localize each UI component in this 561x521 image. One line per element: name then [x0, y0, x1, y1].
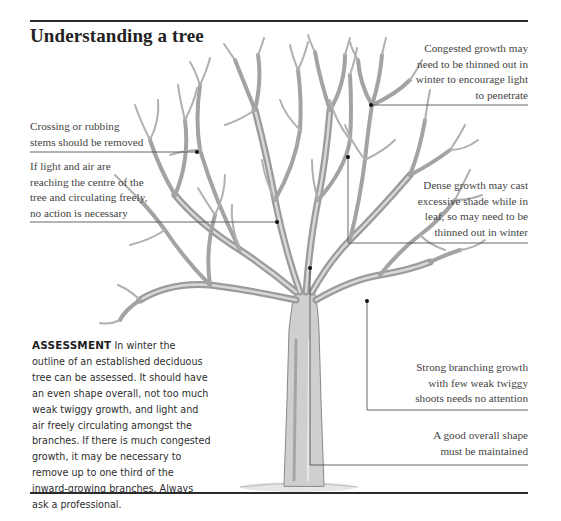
- callout-line: Crossing or rubbing: [30, 119, 143, 135]
- callout-light-and-air: If light and air are reaching the centre…: [30, 159, 147, 221]
- assessment-heading: ASSESSMENT: [32, 339, 111, 351]
- assessment-text: ASSESSMENT In winter the outline of an e…: [32, 338, 202, 513]
- callout-line: leaf, so may need to be: [418, 209, 528, 225]
- assessment-line: an even shape overall, not too much: [32, 386, 202, 402]
- assessment-line: tree can be assessed. It should have: [32, 370, 202, 386]
- callout-dense-growth: Dense growth may cast excessive shade wh…: [418, 178, 528, 240]
- callout-line: Strong branching growth: [415, 360, 528, 376]
- callout-line: Dense growth may cast: [418, 178, 528, 194]
- callout-line: If light and air are: [30, 159, 147, 175]
- callout-line: with few weak twiggy: [415, 376, 528, 392]
- callout-line: no action is necessary: [30, 206, 147, 222]
- callout-strong-branching: Strong branching growth with few weak tw…: [415, 360, 528, 407]
- assessment-line: ask a professional.: [32, 497, 202, 513]
- callout-line: shoots needs no attention: [415, 391, 528, 407]
- assessment-line: weak twiggy growth, and light and: [32, 402, 202, 418]
- callout-line: Congested growth may: [416, 41, 528, 57]
- assessment-line: remove up to one third of the: [32, 465, 202, 481]
- callout-line: tree and circulating freely,: [30, 190, 147, 206]
- callout-line: need to be thinned out in: [416, 57, 528, 73]
- callout-line: A good overall shape: [433, 428, 528, 444]
- callout-line: to penetrate: [416, 88, 528, 104]
- callout-line: stems should be removed: [30, 135, 143, 151]
- callout-line: excessive shade while in: [418, 194, 528, 210]
- callout-line: thinned out in winter: [418, 225, 528, 241]
- callout-line: must be maintained: [433, 444, 528, 460]
- assessment-first-line: ASSESSMENT In winter the: [32, 338, 202, 354]
- assessment-line: outline of an established deciduous: [32, 354, 202, 370]
- bottom-rule: [30, 492, 528, 494]
- callout-line: reaching the centre of the: [30, 175, 147, 191]
- assessment-line: inward-growing branches. Always: [32, 481, 202, 497]
- leader-dots: [195, 103, 373, 303]
- assessment-line: branches. If there is much congested: [32, 433, 202, 449]
- assessment-line: growth, it may be necessary to: [32, 449, 202, 465]
- assessment-line: In winter the: [111, 340, 175, 351]
- callout-crossing-stems: Crossing or rubbing stems should be remo…: [30, 119, 143, 150]
- callout-line: winter to encourage light: [416, 72, 528, 88]
- assessment-line: air freely circulating amongst the: [32, 418, 202, 434]
- callout-congested-growth: Congested growth may need to be thinned …: [416, 41, 528, 103]
- callout-overall-shape: A good overall shape must be maintained: [433, 428, 528, 459]
